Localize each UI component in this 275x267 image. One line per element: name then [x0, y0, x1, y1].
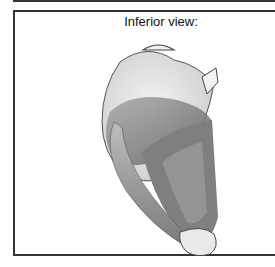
eye-muscle-illustration: [15, 12, 275, 258]
annulus-apex: [180, 228, 217, 255]
top-rule: [13, 0, 275, 2]
figure-frame: Inferior view:: [13, 10, 275, 256]
cornea: [143, 45, 174, 50]
